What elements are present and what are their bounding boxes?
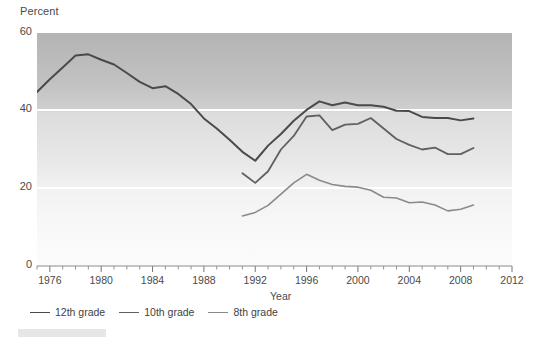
x-tick-label-1976: 1976 [38, 274, 61, 286]
x-tick-label-2012: 2012 [500, 274, 523, 286]
x-tick-label-1988: 1988 [192, 274, 215, 286]
legend-item-12th-grade: 12th grade [30, 306, 105, 318]
y-axis-title: Percent [20, 5, 59, 17]
legend-swatch-10th-grade [119, 312, 139, 313]
legend-label-10th-grade: 10th grade [144, 306, 194, 318]
legend-label-12th-grade: 12th grade [55, 306, 105, 318]
chart-legend: 12th grade 10th grade 8th grade [30, 306, 278, 318]
x-tick-label-1984: 1984 [141, 274, 164, 286]
x-axis-ticks [37, 266, 512, 272]
x-tick-label-1980: 1980 [90, 274, 113, 286]
x-tick-label-1996: 1996 [295, 274, 318, 286]
x-tick-label-2000: 2000 [346, 274, 369, 286]
x-tick-label-2008: 2008 [449, 274, 472, 286]
plot-area-background [37, 33, 512, 266]
source-note-redaction [18, 329, 106, 337]
legend-label-8th-grade: 8th grade [233, 306, 277, 318]
legend-swatch-8th-grade [208, 312, 228, 313]
legend-item-10th-grade: 10th grade [119, 306, 194, 318]
x-axis-title: Year [270, 290, 291, 302]
x-tick-label-1992: 1992 [244, 274, 267, 286]
chart-figure: Percent 60 40 20 0 [0, 0, 539, 342]
legend-item-8th-grade: 8th grade [208, 306, 277, 318]
legend-swatch-12th-grade [30, 312, 50, 313]
x-tick-label-2004: 2004 [398, 274, 421, 286]
